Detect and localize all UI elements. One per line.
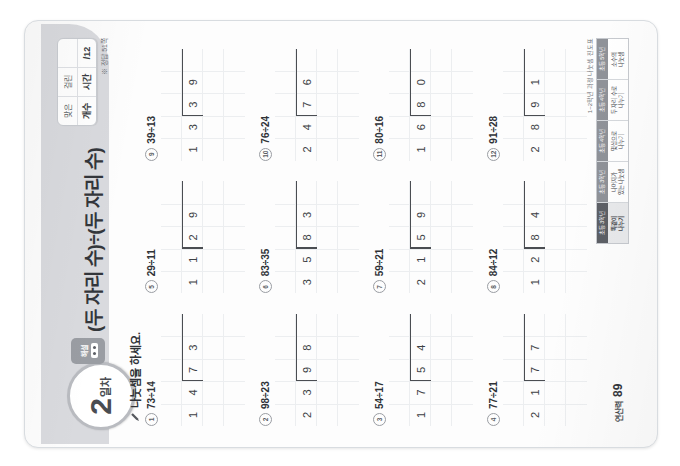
work-cell[interactable] xyxy=(338,204,359,226)
division-work-grid[interactable]: 2891 xyxy=(503,49,587,161)
work-cell[interactable] xyxy=(452,116,473,138)
work-cell[interactable] xyxy=(317,404,338,426)
work-cell[interactable] xyxy=(566,404,587,426)
work-cell[interactable] xyxy=(338,138,359,160)
work-cell[interactable] xyxy=(452,181,473,203)
work-cell[interactable] xyxy=(566,49,587,71)
work-cell[interactable] xyxy=(182,314,203,336)
work-cell[interactable] xyxy=(503,226,524,248)
work-cell[interactable] xyxy=(524,71,545,93)
work-cell[interactable] xyxy=(224,226,245,248)
work-cell[interactable] xyxy=(545,249,566,271)
work-cell[interactable] xyxy=(389,204,410,226)
work-cell[interactable] xyxy=(503,381,524,403)
work-cell[interactable] xyxy=(224,116,245,138)
work-cell[interactable] xyxy=(410,271,431,293)
work-cell[interactable] xyxy=(224,404,245,426)
work-cell[interactable] xyxy=(503,336,524,358)
work-cell[interactable] xyxy=(545,93,566,115)
work-cell[interactable] xyxy=(275,226,296,248)
work-cell[interactable] xyxy=(566,336,587,358)
work-cell[interactable] xyxy=(161,314,182,336)
division-work-grid[interactable]: 1284 xyxy=(503,181,587,293)
work-cell[interactable] xyxy=(296,359,317,381)
work-cell[interactable] xyxy=(545,359,566,381)
work-cell[interactable] xyxy=(524,336,545,358)
work-cell[interactable] xyxy=(452,204,473,226)
work-cell[interactable] xyxy=(545,271,566,293)
work-cell[interactable] xyxy=(503,49,524,71)
work-cell[interactable] xyxy=(203,381,224,403)
work-cell[interactable] xyxy=(317,226,338,248)
work-cell[interactable] xyxy=(431,271,452,293)
work-cell[interactable] xyxy=(182,181,203,203)
work-cell[interactable] xyxy=(275,249,296,271)
work-cell[interactable] xyxy=(410,404,431,426)
work-cell[interactable] xyxy=(203,404,224,426)
work-cell[interactable] xyxy=(389,404,410,426)
work-cell[interactable] xyxy=(161,226,182,248)
work-cell[interactable] xyxy=(431,314,452,336)
work-cell[interactable] xyxy=(203,249,224,271)
work-cell[interactable] xyxy=(224,71,245,93)
work-cell[interactable] xyxy=(224,271,245,293)
work-cell[interactable] xyxy=(161,93,182,115)
work-cell[interactable] xyxy=(182,71,203,93)
work-cell[interactable] xyxy=(161,116,182,138)
work-cell[interactable] xyxy=(338,116,359,138)
work-cell[interactable] xyxy=(182,404,203,426)
work-cell[interactable] xyxy=(317,204,338,226)
work-cell[interactable] xyxy=(224,381,245,403)
work-cell[interactable] xyxy=(566,204,587,226)
work-cell[interactable] xyxy=(182,359,203,381)
work-cell[interactable] xyxy=(389,226,410,248)
work-cell[interactable] xyxy=(452,314,473,336)
work-cell[interactable] xyxy=(503,314,524,336)
work-cell[interactable] xyxy=(410,226,431,248)
work-cell[interactable] xyxy=(503,249,524,271)
work-cell[interactable] xyxy=(566,249,587,271)
work-cell[interactable] xyxy=(452,138,473,160)
work-cell[interactable] xyxy=(224,181,245,203)
work-cell[interactable] xyxy=(203,336,224,358)
work-cell[interactable] xyxy=(566,381,587,403)
work-cell[interactable] xyxy=(161,181,182,203)
work-cell[interactable] xyxy=(389,381,410,403)
work-cell[interactable] xyxy=(203,204,224,226)
work-cell[interactable] xyxy=(224,336,245,358)
work-cell[interactable] xyxy=(545,226,566,248)
work-cell[interactable] xyxy=(203,314,224,336)
work-cell[interactable] xyxy=(524,381,545,403)
work-cell[interactable] xyxy=(224,314,245,336)
work-cell[interactable] xyxy=(503,71,524,93)
work-cell[interactable] xyxy=(296,336,317,358)
work-cell[interactable] xyxy=(338,271,359,293)
work-cell[interactable] xyxy=(161,359,182,381)
work-cell[interactable] xyxy=(389,271,410,293)
division-work-grid[interactable]: 1339 xyxy=(161,49,245,161)
work-cell[interactable] xyxy=(524,138,545,160)
work-cell[interactable] xyxy=(410,204,431,226)
work-cell[interactable] xyxy=(389,116,410,138)
work-cell[interactable] xyxy=(431,404,452,426)
work-cell[interactable] xyxy=(317,181,338,203)
work-cell[interactable] xyxy=(452,271,473,293)
work-cell[interactable] xyxy=(566,181,587,203)
work-cell[interactable] xyxy=(431,93,452,115)
work-cell[interactable] xyxy=(161,204,182,226)
work-cell[interactable] xyxy=(566,271,587,293)
work-cell[interactable] xyxy=(224,204,245,226)
work-cell[interactable] xyxy=(566,93,587,115)
work-cell[interactable] xyxy=(410,314,431,336)
work-cell[interactable] xyxy=(338,381,359,403)
work-cell[interactable] xyxy=(524,204,545,226)
work-cell[interactable] xyxy=(203,181,224,203)
work-cell[interactable] xyxy=(203,93,224,115)
work-cell[interactable] xyxy=(224,138,245,160)
work-cell[interactable] xyxy=(410,381,431,403)
work-cell[interactable] xyxy=(296,138,317,160)
work-cell[interactable] xyxy=(317,71,338,93)
work-cell[interactable] xyxy=(275,49,296,71)
work-cell[interactable] xyxy=(503,116,524,138)
work-cell[interactable] xyxy=(545,116,566,138)
